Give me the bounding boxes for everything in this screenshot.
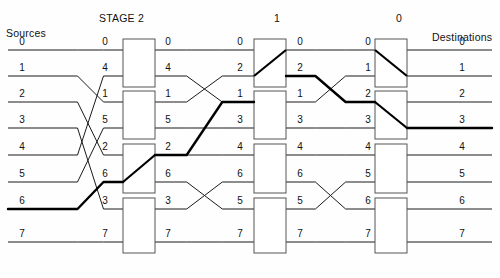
stage2-input-label: 6 <box>98 168 112 179</box>
stage2-output-label: 6 <box>161 168 175 179</box>
destination-label: 2 <box>455 88 469 99</box>
stage1-input-label: 6 <box>233 168 247 179</box>
stage1-output-label: 7 <box>293 228 307 239</box>
destination-label: 6 <box>455 195 469 206</box>
stage2-input-label: 5 <box>98 114 112 125</box>
source-label: 4 <box>15 141 29 152</box>
stage1-output-label: 4 <box>293 141 307 152</box>
switch-box[interactable] <box>254 91 286 139</box>
switch-box[interactable] <box>375 144 407 193</box>
stage1-output-label: 1 <box>293 88 307 99</box>
stage0-input-label: 2 <box>361 88 375 99</box>
stage0-input-label: 1 <box>361 62 375 73</box>
stage2-input-label: 1 <box>98 88 112 99</box>
stage1-output-label: 6 <box>293 168 307 179</box>
stage1-input-label: 5 <box>233 195 247 206</box>
source-label: 5 <box>15 168 29 179</box>
destination-label: 4 <box>455 141 469 152</box>
switch-box[interactable] <box>254 198 286 253</box>
stage2-output-label: 1 <box>161 88 175 99</box>
stage1-input-label: 3 <box>233 114 247 125</box>
stage-header-2: STAGE 2 <box>99 12 144 24</box>
stage0-input-label: 7 <box>361 228 375 239</box>
stage0-input-label: 5 <box>361 168 375 179</box>
stage1-input-label: 2 <box>233 62 247 73</box>
source-label: 1 <box>15 62 29 73</box>
stage-header-0: 0 <box>396 12 402 24</box>
stage-header-1: 1 <box>274 12 280 24</box>
source-label: 7 <box>15 228 29 239</box>
stage2-input-label: 2 <box>98 141 112 152</box>
destination-label: 0 <box>455 36 469 47</box>
stage2-input-label: 4 <box>98 62 112 73</box>
stage2-input-label: 3 <box>98 195 112 206</box>
stage1-output-label: 5 <box>293 195 307 206</box>
source-label: 6 <box>15 195 29 206</box>
destination-label: 7 <box>455 228 469 239</box>
stage1-output-label: 3 <box>293 114 307 125</box>
network-wiring-svg <box>0 0 500 278</box>
stage1-input-label: 7 <box>233 228 247 239</box>
source-label: 3 <box>15 114 29 125</box>
switch-box[interactable] <box>123 91 155 139</box>
stage0-input-label: 0 <box>361 36 375 47</box>
link-segment <box>58 76 123 102</box>
source-label: 2 <box>15 88 29 99</box>
switch-box[interactable] <box>254 144 286 193</box>
stage1-output-label: 0 <box>293 36 307 47</box>
source-label: 0 <box>15 36 29 47</box>
stage1-input-label: 0 <box>233 36 247 47</box>
link-segment <box>58 76 123 155</box>
stage2-output-label: 0 <box>161 36 175 47</box>
stage0-input-label: 4 <box>361 141 375 152</box>
stage2-output-label: 4 <box>161 62 175 73</box>
switch-box[interactable] <box>123 198 155 253</box>
stage1-input-label: 4 <box>233 141 247 152</box>
stage1-output-label: 2 <box>293 62 307 73</box>
destination-label: 5 <box>455 168 469 179</box>
stage2-input-label: 7 <box>98 228 112 239</box>
stage1-input-label: 1 <box>233 88 247 99</box>
switch-box[interactable] <box>375 198 407 253</box>
stage2-output-label: 3 <box>161 195 175 206</box>
destination-label: 3 <box>455 114 469 125</box>
stage2-input-label: 0 <box>98 36 112 47</box>
network-diagram-figure: Sources Destinations STAGE 2 1 0 0123456… <box>0 0 500 278</box>
stage2-output-label: 2 <box>161 141 175 152</box>
stage2-output-label: 7 <box>161 228 175 239</box>
stage2-output-label: 5 <box>161 114 175 125</box>
destination-label: 1 <box>455 62 469 73</box>
switch-box[interactable] <box>123 39 155 87</box>
stage0-input-label: 6 <box>361 195 375 206</box>
stage0-input-label: 3 <box>361 114 375 125</box>
